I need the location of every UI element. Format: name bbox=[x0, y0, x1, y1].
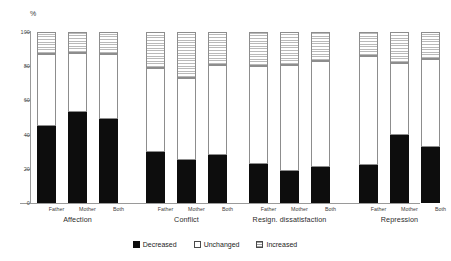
bar-segment-increased bbox=[311, 32, 330, 61]
bar-resign-dissatisfaction-father bbox=[249, 32, 268, 203]
bar-segment-unchanged bbox=[146, 68, 165, 152]
bar-segment-unchanged bbox=[311, 61, 330, 167]
x-axis-baseline bbox=[20, 203, 420, 204]
legend-swatch-decreased-icon bbox=[133, 241, 140, 248]
category-label-both: Both bbox=[311, 206, 351, 212]
plot-area bbox=[31, 32, 423, 203]
bar-segment-decreased bbox=[311, 167, 330, 203]
bar-segment-unchanged bbox=[99, 54, 118, 119]
bar-segment-increased bbox=[421, 32, 440, 59]
bar-segment-increased bbox=[146, 32, 165, 68]
bar-segment-increased bbox=[249, 32, 268, 66]
bar-segment-decreased bbox=[68, 112, 87, 203]
bar-segment-decreased bbox=[99, 119, 118, 203]
bar-segment-unchanged bbox=[359, 56, 378, 165]
group-label-affection: Affection bbox=[63, 215, 92, 224]
group-label-conflict: Conflict bbox=[174, 215, 199, 224]
bar-segment-decreased bbox=[37, 126, 56, 203]
y-tick-label: 100 bbox=[8, 29, 30, 35]
bar-segment-decreased bbox=[177, 160, 196, 203]
bar-segment-decreased bbox=[421, 147, 440, 203]
bar-affection-father bbox=[37, 32, 56, 203]
bar-conflict-father bbox=[146, 32, 165, 203]
y-tick-label: 40 bbox=[8, 132, 30, 138]
bar-conflict-mother bbox=[177, 32, 196, 203]
bar-segment-unchanged bbox=[390, 63, 409, 135]
bar-conflict-both bbox=[208, 32, 227, 203]
bar-segment-increased bbox=[359, 32, 378, 56]
bar-segment-decreased bbox=[390, 135, 409, 203]
legend-swatch-unchanged-icon bbox=[194, 241, 201, 248]
bar-affection-mother bbox=[68, 32, 87, 203]
bar-segment-unchanged bbox=[37, 54, 56, 126]
bar-segment-increased bbox=[177, 32, 196, 78]
category-label-both: Both bbox=[208, 206, 248, 212]
legend-item-increased[interactable]: Increased bbox=[256, 241, 297, 248]
bar-segment-decreased bbox=[208, 155, 227, 203]
legend-label: Unchanged bbox=[204, 241, 240, 248]
y-tick-label: 80 bbox=[8, 63, 30, 69]
legend-label: Increased bbox=[266, 241, 297, 248]
bar-segment-unchanged bbox=[208, 65, 227, 156]
y-tick-label: 20 bbox=[8, 166, 30, 172]
bar-segment-increased bbox=[280, 32, 299, 64]
bar-segment-decreased bbox=[146, 152, 165, 203]
bar-segment-increased bbox=[68, 32, 87, 53]
bar-segment-unchanged bbox=[249, 66, 268, 163]
group-label-repression: Repression bbox=[381, 215, 418, 224]
group-label-resign-dissatisfaction: Resign. dissatisfaction bbox=[253, 215, 327, 224]
y-tick-label: 0 bbox=[8, 200, 30, 206]
bar-repression-mother bbox=[390, 32, 409, 203]
bar-repression-both bbox=[421, 32, 440, 203]
bar-segment-increased bbox=[390, 32, 409, 63]
bar-segment-unchanged bbox=[280, 65, 299, 171]
bar-segment-increased bbox=[99, 32, 118, 54]
bar-affection-both bbox=[99, 32, 118, 203]
legend-label: Decreased bbox=[143, 241, 177, 248]
bar-segment-decreased bbox=[280, 171, 299, 203]
chart-legend: DecreasedUnchangedIncreased bbox=[0, 241, 430, 248]
y-tick-label: 60 bbox=[8, 97, 30, 103]
bar-segment-decreased bbox=[249, 164, 268, 203]
legend-item-unchanged[interactable]: Unchanged bbox=[194, 241, 240, 248]
y-axis-unit-label: % bbox=[30, 10, 36, 17]
bar-segment-increased bbox=[208, 32, 227, 64]
legend-swatch-increased-icon bbox=[256, 241, 263, 248]
bar-segment-increased bbox=[37, 32, 56, 54]
bar-repression-father bbox=[359, 32, 378, 203]
bar-resign-dissatisfaction-mother bbox=[280, 32, 299, 203]
bar-segment-unchanged bbox=[68, 53, 87, 113]
category-label-both: Both bbox=[421, 206, 451, 212]
legend-item-decreased[interactable]: Decreased bbox=[133, 241, 177, 248]
category-label-both: Both bbox=[99, 206, 139, 212]
bar-segment-decreased bbox=[359, 165, 378, 203]
bar-resign-dissatisfaction-both bbox=[311, 32, 330, 203]
bar-segment-unchanged bbox=[177, 78, 196, 160]
bar-segment-unchanged bbox=[421, 59, 440, 146]
